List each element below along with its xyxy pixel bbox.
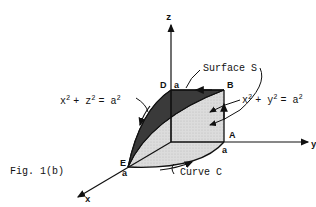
curve-c-label: Curve C bbox=[180, 167, 222, 178]
svg-text:x2+ z2= a2: x2+ z2= a2 bbox=[60, 94, 121, 107]
intercept-x-a: a bbox=[122, 168, 128, 178]
surface-s-leader bbox=[186, 70, 200, 88]
point-e-label: E bbox=[120, 158, 126, 168]
point-b-label: B bbox=[227, 80, 234, 90]
figure-caption: Fig. 1(b) bbox=[10, 166, 64, 177]
point-a-label: A bbox=[229, 130, 236, 140]
y-axis-label: y bbox=[311, 140, 316, 150]
surface-s-label: Surface S bbox=[203, 63, 257, 74]
equation-xz-cylinder: x2+ z2= a2 bbox=[60, 94, 121, 107]
intercept-y-a: a bbox=[222, 145, 228, 155]
z-axis-label: z bbox=[166, 13, 171, 23]
equation-xy-cylinder: x2+ y2= a2 bbox=[242, 93, 303, 106]
figure-diagram: z y x D B A E a a a Surface S x2+ y2= a2… bbox=[0, 0, 316, 207]
point-d-label: D bbox=[160, 80, 167, 90]
intercept-z-a: a bbox=[174, 80, 180, 90]
equation-xz-leader bbox=[136, 98, 148, 112]
x-axis-label: x bbox=[85, 195, 91, 205]
svg-text:x2+ y2= a2: x2+ y2= a2 bbox=[242, 93, 303, 106]
